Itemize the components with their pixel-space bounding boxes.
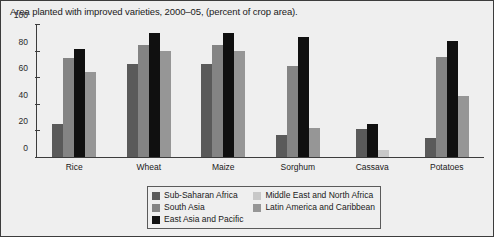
- bar: [149, 33, 160, 157]
- legend-item-label: Sub-Saharan Africa: [164, 190, 238, 201]
- legend-swatch-icon: [253, 204, 261, 212]
- legend-swatch-icon: [152, 192, 160, 200]
- bar: [223, 33, 234, 157]
- legend-column-left: Sub-Saharan AfricaSouth AsiaEast Asia an…: [152, 190, 243, 225]
- y-axis-tick-label: 80: [19, 37, 28, 47]
- bar: [276, 135, 287, 156]
- legend-item: South Asia: [152, 202, 243, 213]
- bar: [138, 45, 149, 157]
- legend-item-label: Middle East and North Africa: [265, 190, 373, 201]
- bar: [127, 64, 138, 156]
- legend-swatch-icon: [152, 216, 160, 224]
- bar: [234, 51, 245, 156]
- legend-item: Latin America and Caribbean: [253, 202, 375, 213]
- bar: [74, 49, 85, 157]
- y-axis-tick-label: 40: [19, 90, 28, 100]
- plot-area: 020406080100 RiceWheatMaizeSorghumCassav…: [36, 25, 484, 158]
- bar: [356, 129, 367, 157]
- bar: [436, 57, 447, 157]
- bar: [212, 45, 223, 157]
- bar: [367, 124, 378, 157]
- bar: [378, 150, 389, 157]
- y-axis-tick-label: 60: [19, 63, 28, 73]
- bar: [298, 37, 309, 157]
- bar: [425, 138, 436, 156]
- legend-item: Sub-Saharan Africa: [152, 190, 243, 201]
- bar: [63, 58, 74, 157]
- legend-item-label: East Asia and Pacific: [164, 214, 243, 225]
- bar-group: Wheat: [112, 25, 187, 157]
- bar-groups: RiceWheatMaizeSorghumCassavaPotatoes: [37, 25, 484, 157]
- bar: [309, 128, 320, 157]
- x-axis-category-label: Maize: [186, 162, 261, 172]
- bar: [458, 96, 469, 156]
- x-axis-line: [36, 157, 484, 159]
- chart-figure: Area planted with improved varieties, 20…: [0, 0, 494, 237]
- y-axis-tick-label: 100: [14, 10, 28, 20]
- legend-item-label: Latin America and Caribbean: [265, 202, 375, 213]
- bar-group: Cassava: [335, 25, 410, 157]
- legend-item: East Asia and Pacific: [152, 214, 243, 225]
- bar: [52, 124, 63, 157]
- y-axis-tick: [35, 157, 40, 158]
- bar: [287, 66, 298, 157]
- legend-column-right: Middle East and North AfricaLatin Americ…: [253, 190, 375, 225]
- x-axis-category-label: Cassava: [335, 162, 410, 172]
- legend-item-label: South Asia: [164, 202, 205, 213]
- bar-group: Sorghum: [261, 25, 336, 157]
- x-axis-category-label: Rice: [37, 162, 112, 172]
- bar-group: Rice: [37, 25, 112, 157]
- legend-swatch-icon: [253, 192, 261, 200]
- chart-title: Area planted with improved varieties, 20…: [10, 6, 298, 17]
- chart-legend: Sub-Saharan AfricaSouth AsiaEast Asia an…: [147, 186, 381, 229]
- bar: [160, 51, 171, 156]
- x-axis-category-label: Sorghum: [261, 162, 336, 172]
- legend-swatch-icon: [152, 204, 160, 212]
- bar: [201, 64, 212, 156]
- bar-group: Maize: [186, 25, 261, 157]
- y-axis-tick-label: 0: [23, 143, 28, 153]
- legend-item: Middle East and North Africa: [253, 190, 375, 201]
- x-axis-category-label: Potatoes: [410, 162, 485, 172]
- bar: [85, 72, 96, 156]
- bar: [447, 41, 458, 157]
- y-axis-tick-label: 20: [19, 116, 28, 126]
- bar-group: Potatoes: [410, 25, 485, 157]
- x-axis-category-label: Wheat: [112, 162, 187, 172]
